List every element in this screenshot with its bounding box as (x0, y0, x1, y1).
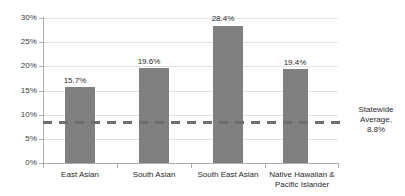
bar-south-east-asian[interactable] (213, 26, 243, 163)
y-tick-mark-5 (39, 139, 43, 140)
y-tick-mark-20 (39, 66, 43, 67)
y-tick-mark-15 (39, 91, 43, 92)
bar-value-south-asian: 19.6% (119, 57, 179, 66)
gridline-25 (43, 42, 338, 43)
bar-south-asian[interactable] (139, 68, 169, 163)
bar-value-south-east-asian: 28.4% (193, 14, 253, 23)
y-tick-label-25: 25% (1, 38, 37, 46)
y-axis-labels: 30% 25% 20% 15% 10% 5% 0% (0, 0, 37, 196)
y-tick-label-0: 0% (1, 159, 37, 167)
bar-value-east-asian: 15.7% (45, 76, 105, 85)
y-tick-label-15: 15% (1, 87, 37, 95)
y-tick-mark-25 (39, 42, 43, 43)
x-category-label-native-hawaiian-pacific-islander: Native Hawaiian & Pacific Islander (265, 170, 339, 190)
statewide-average-line (43, 121, 345, 124)
y-tick-label-10: 10% (1, 111, 37, 119)
plot-area (43, 18, 338, 163)
y-tick-mark-10 (39, 115, 43, 116)
x-tick-mark-2 (191, 164, 192, 168)
y-tick-mark-30 (39, 18, 43, 19)
x-category-label-east-asian: East Asian (43, 170, 117, 180)
bar-value-native-hawaiian-pacific-islander: 19.4% (265, 58, 325, 67)
bar-east-asian[interactable] (65, 87, 95, 163)
y-tick-label-20: 20% (1, 62, 37, 70)
x-tick-mark-0 (43, 164, 44, 168)
bar-chart: 30% 25% 20% 15% 10% 5% 0% 15.7% 19.6% 28… (0, 0, 405, 196)
x-tick-mark-1 (117, 164, 118, 168)
gridline-30 (43, 18, 338, 19)
x-tick-mark-4 (338, 164, 339, 168)
statewide-average-label: Statewide Average, 8.8% (348, 105, 404, 135)
y-tick-label-5: 5% (1, 135, 37, 143)
bar-native-hawaiian-pacific-islander[interactable] (283, 69, 308, 163)
x-category-label-south-asian: South Asian (117, 170, 191, 180)
y-tick-label-30: 30% (1, 14, 37, 22)
y-axis-line (43, 17, 44, 164)
x-tick-mark-3 (265, 164, 266, 168)
x-category-label-south-east-asian: South East Asian (191, 170, 265, 180)
